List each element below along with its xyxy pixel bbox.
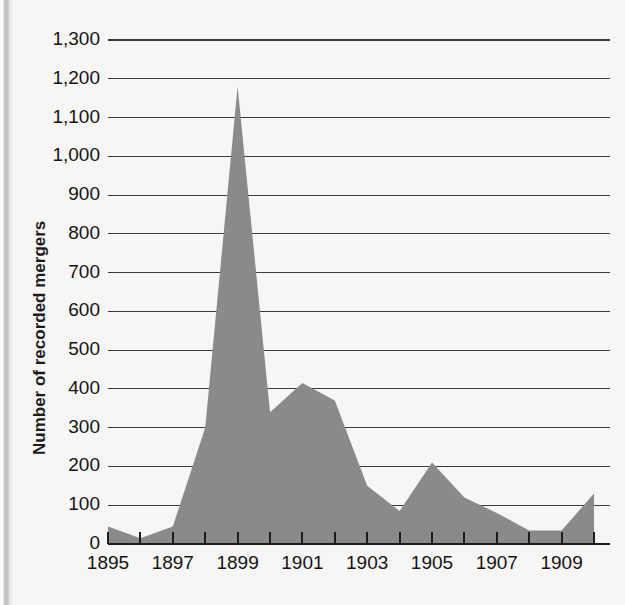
y-tick-label-1300: 1,300 [52, 28, 100, 50]
y-tick-label-900: 900 [68, 183, 100, 205]
y-tick-label-100: 100 [68, 493, 100, 515]
y-tick-label-700: 700 [68, 261, 100, 283]
y-tick-label-0: 0 [89, 532, 100, 554]
area-series-mergers [108, 87, 594, 544]
x-tick-label-1895: 1895 [78, 552, 138, 574]
x-tick-label-1903: 1903 [337, 552, 397, 574]
gridlines [108, 40, 610, 505]
y-tick-label-400: 400 [68, 377, 100, 399]
series-layer [108, 87, 594, 544]
x-tick-label-1909: 1909 [532, 552, 592, 574]
x-tick-label-1901: 1901 [272, 552, 332, 574]
y-tick-label-600: 600 [68, 299, 100, 321]
y-tick-label-1200: 1,200 [52, 67, 100, 89]
y-tick-label-1000: 1,000 [52, 144, 100, 166]
y-tick-label-300: 300 [68, 416, 100, 438]
y-tick-label-500: 500 [68, 338, 100, 360]
x-tick-label-1905: 1905 [402, 552, 462, 574]
y-tick-label-200: 200 [68, 454, 100, 476]
y-axis-title: Number of recorded mergers [30, 221, 50, 455]
x-tick-label-1899: 1899 [208, 552, 268, 574]
x-tick-label-1897: 1897 [143, 552, 203, 574]
y-tick-label-800: 800 [68, 222, 100, 244]
y-tick-label-1100: 1,100 [52, 106, 100, 128]
chart-page: 01002003004005006007008009001,0001,1001,… [0, 0, 625, 605]
x-tick-label-1907: 1907 [467, 552, 527, 574]
area-chart: 01002003004005006007008009001,0001,1001,… [0, 0, 625, 605]
